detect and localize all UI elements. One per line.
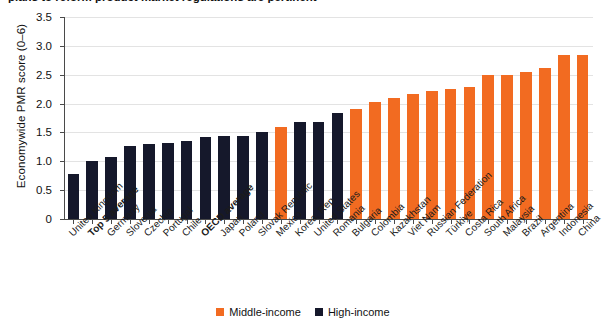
x-axis-tick-label: Romania (331, 224, 345, 238)
chart-legend: Middle-incomeHigh-income (0, 306, 606, 318)
bar-slot (139, 17, 158, 219)
x-axis-tick-label: Korea, Rep. (293, 224, 307, 238)
bar (482, 75, 494, 219)
x-axis-tick-label: OECD average (199, 224, 213, 238)
x-axis-tick-label: Türkiye (444, 224, 458, 238)
x-axis-label-slot: Portugal (158, 222, 177, 302)
y-axis-tick-label: 1.0 (36, 155, 52, 167)
legend-label: High-income (328, 306, 390, 318)
x-axis-tick-label: Germany (104, 224, 118, 238)
bar (200, 137, 212, 219)
bar-slot (441, 17, 460, 219)
legend-item[interactable]: Middle-income (216, 306, 301, 318)
bar (256, 132, 268, 219)
x-axis-label-slot: China (573, 222, 592, 302)
x-axis-label-slot: Colombia (366, 222, 385, 302)
bar-slot (64, 17, 83, 219)
x-axis-tick-label: China (576, 224, 590, 238)
bar-slot (554, 17, 573, 219)
bar-slot (215, 17, 234, 219)
legend-label: Middle-income (229, 306, 301, 318)
bar-slot (83, 17, 102, 219)
x-axis-tick-label: Portugal (161, 224, 175, 238)
bar-slot (535, 17, 554, 219)
x-axis-tick-label: Czechia (142, 224, 156, 238)
bar (501, 75, 513, 219)
legend-item[interactable]: High-income (315, 306, 390, 318)
bar (577, 55, 589, 219)
x-axis-label-slot: Costa Rica (460, 222, 479, 302)
x-axis-label-slot: Bulgaria (347, 222, 366, 302)
bar-slot (366, 17, 385, 219)
bar-slot (196, 17, 215, 219)
bar-slot (347, 17, 366, 219)
x-axis-tick-label: Malaysia (500, 224, 514, 238)
legend-swatch (216, 308, 224, 316)
bar (369, 102, 381, 219)
x-axis-label-slot: Slovenia (121, 222, 140, 302)
x-axis-label-slot: Romania (328, 222, 347, 302)
x-axis-tick-label: United Kingdom (67, 224, 81, 238)
chart-title-clipped: plans to reform product market regulatio… (0, 0, 606, 7)
x-axis-tick-label: Indonesia (557, 224, 571, 238)
y-axis-tick-labels: 00.51.01.52.02.53.03.5 (0, 17, 60, 219)
x-axis-label-slot: United States (309, 222, 328, 302)
x-axis-tick-label: Slovak Republic (255, 224, 269, 238)
x-axis-label-slot: Japan (215, 222, 234, 302)
y-axis-tick-label: 3.0 (36, 40, 52, 52)
x-axis-tick-label: Japan (218, 224, 232, 238)
y-axis-tick-label: 3.5 (36, 11, 52, 23)
bar-slot (422, 17, 441, 219)
bar (558, 55, 570, 219)
bar (237, 136, 249, 219)
bar-slot (403, 17, 422, 219)
y-axis-tick-label: 1.5 (36, 126, 52, 138)
x-axis-tick-label: Slovenia (123, 224, 137, 238)
x-axis-label-slot: Viet Nam (403, 222, 422, 302)
bar-slot (573, 17, 592, 219)
x-axis-label-slot: Kazakhstan (385, 222, 404, 302)
y-axis-tick-label: 0 (46, 213, 52, 225)
bar-slot (177, 17, 196, 219)
x-axis-label-slot: Indonesia (554, 222, 573, 302)
y-axis-tick-label: 2.5 (36, 69, 52, 81)
x-axis-label-slot: OECD average (196, 222, 215, 302)
x-axis-label-slot: Poland (234, 222, 253, 302)
bar-slot (385, 17, 404, 219)
x-axis-label-slot: United Kingdom (64, 222, 83, 302)
x-axis-tick-label: United States (312, 224, 326, 238)
x-axis-label-slot: Brazil (517, 222, 536, 302)
bar-slot (253, 17, 272, 219)
x-axis-label-slot: Türkiye (441, 222, 460, 302)
y-axis-tick-label: 0.5 (36, 184, 52, 196)
bar-slot (498, 17, 517, 219)
bar (68, 174, 80, 219)
x-axis-label-slot: Russian Federation (422, 222, 441, 302)
x-axis-label-slot: Germany (102, 222, 121, 302)
bar-slot (271, 17, 290, 219)
bar (539, 68, 551, 219)
x-axis-tick-label: Top 5 average (86, 224, 100, 238)
x-axis-label-slot: South Africa (479, 222, 498, 302)
x-axis-label-slot: Malaysia (498, 222, 517, 302)
x-axis-tick-label: Bulgaria (350, 224, 364, 238)
x-axis-tick-label: Brazil (519, 224, 533, 238)
x-axis-tick-label: Poland (236, 224, 250, 238)
x-axis-tick-label: Colombia (368, 224, 382, 238)
y-axis-tick-label: 2.0 (36, 98, 52, 110)
legend-swatch (315, 308, 323, 316)
x-axis-tick-label: Argentina (538, 224, 552, 238)
x-axis-label-slot: Korea, Rep. (290, 222, 309, 302)
x-axis-tick-label: Kazakhstan (387, 224, 401, 238)
x-axis-label-slot: Mexico (271, 222, 290, 302)
x-axis-tick-label: Chile (180, 224, 194, 238)
chart-title-text: plans to reform product market regulatio… (8, 0, 317, 3)
bar-series (64, 17, 592, 219)
bar-slot (517, 17, 536, 219)
x-axis-label-slot: Slovak Republic (253, 222, 272, 302)
x-axis-tick-label: Viet Nam (406, 224, 420, 238)
bar-slot (158, 17, 177, 219)
x-axis-label-slot: Top 5 average (83, 222, 102, 302)
x-axis-tick-label: Russian Federation (425, 224, 439, 238)
x-axis-tick-label: Costa Rica (463, 224, 477, 238)
